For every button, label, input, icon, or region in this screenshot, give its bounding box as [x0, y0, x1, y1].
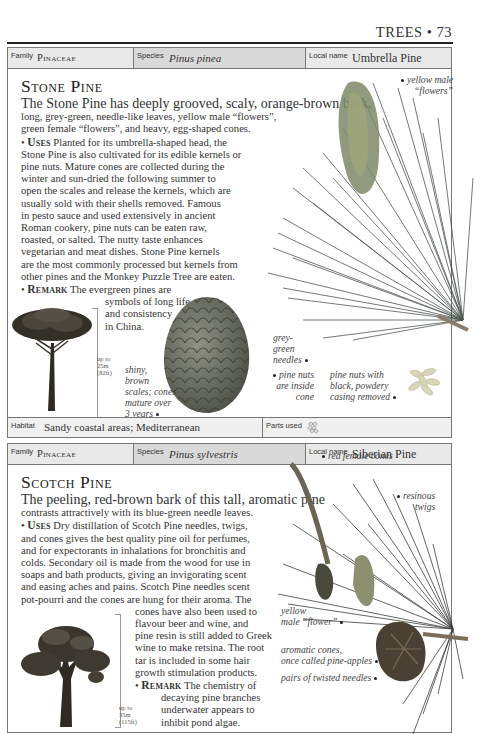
- entry-title: Scotch Pine: [21, 472, 112, 493]
- pine-nuts-icon: [307, 421, 319, 433]
- uses-keyword: Uses: [27, 519, 50, 531]
- habitat-cell: Habitat Sandy coastal areas; Mediterrane…: [8, 418, 263, 437]
- scotch-pine-tree-illustration: [16, 619, 116, 729]
- caption-twisted-needles: pairs of twisted needles: [281, 672, 380, 683]
- running-head: TREES • 73: [376, 24, 452, 41]
- habitat-label: Habitat: [11, 421, 35, 430]
- remark-keyword: Remark: [141, 679, 181, 691]
- family-label: Family: [11, 447, 33, 456]
- family-value: Pinaceae: [37, 52, 76, 63]
- stone-pine-branch-illustration: [263, 58, 478, 338]
- parts-used-cell: Parts used: [263, 418, 451, 437]
- species-value: Pinus sylvestris: [169, 448, 238, 460]
- pine-nuts-illustration: [405, 366, 445, 398]
- caption-needles: grey- green needles: [273, 332, 311, 365]
- height-label: up to 35m (115ft): [119, 704, 137, 725]
- species-label: Species: [137, 447, 164, 456]
- scotch-pine-branch-illustration: [273, 464, 473, 734]
- species-label: Species: [137, 51, 164, 60]
- caption-scales: shiny, brown scales; cones mature over 3…: [125, 364, 176, 419]
- caption-nuts-removed: pine nuts with black, powdery casing rem…: [330, 369, 399, 402]
- caption-yellow-male-flowers: yellow male “flowers”: [398, 74, 453, 96]
- stone-pine-tree-illustration: [8, 303, 93, 423]
- family-label: Family: [11, 51, 33, 60]
- caption-yellow-male-flower: yellow male “flower”: [281, 605, 346, 627]
- remark-keyword: Remark: [27, 283, 67, 295]
- entry-stone-pine: Family Pinaceae Species Pinus pinea Loca…: [7, 47, 452, 438]
- entry-title: Stone Pine: [21, 76, 103, 97]
- family-cell: Family Pinaceae: [8, 444, 134, 464]
- family-cell: Family Pinaceae: [8, 48, 134, 68]
- habitat-value: Sandy coastal areas; Mediterranean: [44, 421, 200, 433]
- top-rule: [7, 42, 453, 44]
- species-cell: Species Pinus sylvestris: [134, 444, 306, 464]
- caption-resinous-twigs: resinous twigs: [394, 490, 435, 512]
- caption-red-female-cones: red female cones: [319, 450, 393, 461]
- height-label: up to 25m (82ft): [97, 355, 112, 376]
- species-value: Pinus pinea: [169, 52, 221, 64]
- entry-footer: Habitat Sandy coastal areas; Mediterrane…: [8, 417, 451, 437]
- caption-aromatic-cones: aromatic cones, once called pine-apples: [281, 644, 381, 666]
- uses-keyword: Uses: [27, 136, 50, 148]
- parts-used-label: Parts used: [266, 421, 302, 430]
- family-value: Pinaceae: [37, 448, 76, 459]
- entry-scotch-pine: Family Pinaceae Species Pinus sylvestris…: [7, 443, 452, 733]
- caption-nuts-inside: pine nuts are inside cone: [270, 369, 314, 402]
